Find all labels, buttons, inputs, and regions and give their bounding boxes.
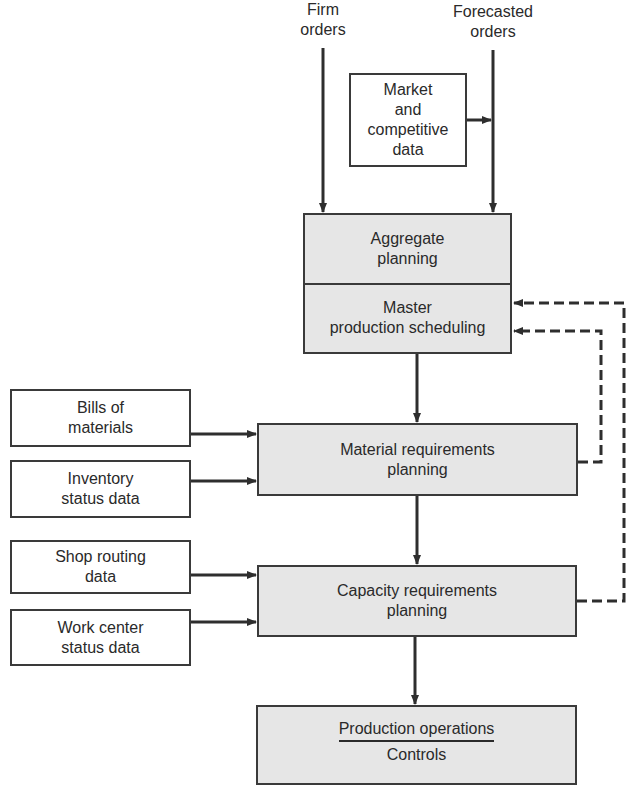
- mrp-line2: planning: [387, 460, 448, 480]
- crp-line2: planning: [387, 601, 448, 621]
- bills-line2: materials: [68, 418, 133, 438]
- forecasted-orders-line2: orders: [443, 22, 543, 42]
- routing-line1: Shop routing: [55, 547, 146, 567]
- inventory-line1: Inventory: [68, 469, 134, 489]
- routing-line2: data: [85, 567, 116, 587]
- mrp-line1: Material requirements: [340, 440, 495, 460]
- production-operations-box: Production operations Controls: [256, 705, 577, 785]
- inventory-status-box: Inventory status data: [10, 460, 191, 518]
- aggregate-planning-section: Aggregate planning: [305, 215, 510, 283]
- inventory-line2: status data: [61, 489, 139, 509]
- crp-line1: Capacity requirements: [337, 581, 497, 601]
- forecasted-orders-line1: Forecasted: [443, 2, 543, 22]
- master-production-scheduling-section: Master production scheduling: [305, 285, 510, 353]
- master-line2: production scheduling: [330, 318, 486, 338]
- production-controls-subtitle: Controls: [387, 745, 447, 765]
- aggregate-line1: Aggregate: [371, 229, 445, 249]
- aggregate-line2: planning: [377, 249, 438, 269]
- market-line1: Market: [384, 80, 433, 100]
- production-operations-title: Production operations: [339, 719, 495, 742]
- workcenter-line1: Work center: [58, 618, 144, 638]
- firm-orders-label: Firm orders: [293, 0, 353, 40]
- work-center-status-box: Work center status data: [10, 609, 191, 666]
- market-line2: and: [395, 100, 422, 120]
- bills-line1: Bills of: [77, 398, 124, 418]
- forecasted-orders-label: Forecasted orders: [443, 2, 543, 42]
- aggregate-master-box: Aggregate planning Master production sch…: [303, 213, 512, 354]
- market-line4: data: [392, 140, 423, 160]
- market-competitive-data-box: Market and competitive data: [349, 73, 467, 167]
- master-line1: Master: [383, 298, 432, 318]
- firm-orders-line2: orders: [293, 20, 353, 40]
- shop-routing-box: Shop routing data: [10, 540, 191, 594]
- crp-box: Capacity requirements planning: [257, 565, 577, 637]
- mrp-box: Material requirements planning: [257, 423, 578, 496]
- firm-orders-line1: Firm: [293, 0, 353, 20]
- workcenter-line2: status data: [61, 638, 139, 658]
- market-line3: competitive: [368, 120, 449, 140]
- bills-of-materials-box: Bills of materials: [10, 389, 191, 447]
